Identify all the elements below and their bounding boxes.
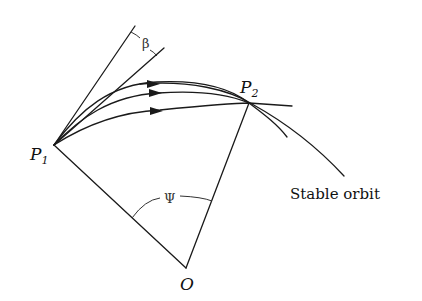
- psi-label: Ψ: [164, 191, 175, 206]
- beta-angle-arc: [131, 32, 140, 38]
- p1-label: P1: [29, 144, 48, 167]
- radius-o-p2: [186, 103, 249, 268]
- arrow-head-upper: [147, 80, 160, 88]
- beta-angle-arc-2: [150, 50, 157, 56]
- origin-label: O: [180, 274, 194, 294]
- arrow-head-lower: [150, 107, 163, 115]
- stable-orbit-curve: [140, 83, 344, 176]
- psi-angle-arc: [132, 198, 160, 218]
- stable-orbit-label: Stable orbit: [290, 185, 380, 203]
- p2-label: P2: [239, 77, 258, 100]
- trajectory-middle: [54, 92, 249, 145]
- direction-line-2: [54, 48, 164, 145]
- arrow-head-middle: [149, 89, 162, 97]
- beta-label: β: [142, 36, 150, 51]
- psi-angle-arc-2: [180, 196, 212, 201]
- orbit-diagram: β Ψ P1 P2 O Stable orbit: [0, 0, 422, 301]
- direction-line-1: [54, 26, 135, 145]
- radius-o-p1: [54, 145, 186, 268]
